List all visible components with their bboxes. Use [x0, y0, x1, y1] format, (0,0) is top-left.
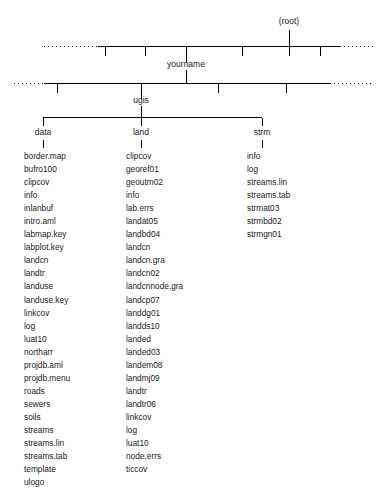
user-level-group	[14, 70, 374, 99]
file-item: inlanbuf	[24, 202, 70, 215]
file-item: landdg01	[126, 307, 183, 320]
file-item: projdb.menu	[24, 372, 70, 385]
file-item: strmat03	[247, 202, 290, 215]
file-list-strm: infologstreams.linstreams.tabstrmat03str…	[247, 150, 290, 241]
file-item: intro.aml	[24, 215, 70, 228]
file-item: info	[247, 150, 290, 163]
file-item: landed	[126, 333, 183, 346]
file-item: landcn	[24, 254, 70, 267]
file-item: landcn	[126, 241, 183, 254]
ugis-node-label: ugis	[133, 95, 149, 105]
file-item: landtr	[126, 385, 183, 398]
file-item: landcnnode.gra	[126, 280, 183, 293]
file-item: landmj09	[126, 372, 183, 385]
file-item: landem08	[126, 359, 183, 372]
file-item: log	[126, 424, 183, 437]
file-item: landtr	[24, 267, 70, 280]
file-item: landuse	[24, 280, 70, 293]
project-level-group	[43, 106, 262, 148]
yourname-node-label: yourname	[167, 59, 205, 69]
file-item: clipcov	[24, 176, 70, 189]
file-item: node.errs	[126, 450, 183, 463]
file-item: streams.lin	[24, 437, 70, 450]
file-item: info	[24, 189, 70, 202]
file-item: labmap.key	[24, 228, 70, 241]
file-item: luat10	[24, 333, 70, 346]
file-item: sewers	[24, 398, 70, 411]
file-item: border.map	[24, 150, 70, 163]
file-item: landcn.gra	[126, 254, 183, 267]
file-item: log	[247, 163, 290, 176]
file-item: ticcov	[126, 463, 183, 476]
subdir-header-data: data	[35, 127, 52, 137]
file-item: landcn02	[126, 267, 183, 280]
file-item: landed03	[126, 346, 183, 359]
file-item: lab.errs	[126, 202, 183, 215]
file-item: landtr06	[126, 398, 183, 411]
subdir-header-strm: strm	[254, 127, 271, 137]
file-item: strmbd02	[247, 215, 290, 228]
file-list-land: clipcovgeoref01geoutm02infolab.errslanda…	[126, 150, 183, 476]
file-list-data: border.mapbufro100clipcovinfoinlanbufint…	[24, 150, 70, 489]
file-item: streams.tab	[24, 450, 70, 463]
file-item: info	[126, 189, 183, 202]
file-item: northarr	[24, 346, 70, 359]
file-item: log	[24, 320, 70, 333]
file-item: streams.lin	[247, 176, 290, 189]
file-item: geoutm02	[126, 176, 183, 189]
root-node-label: (root)	[279, 16, 299, 26]
file-item: streams	[24, 424, 70, 437]
file-item: luat10	[126, 437, 183, 450]
file-item: template	[24, 463, 70, 476]
file-item: landbd04	[126, 228, 183, 241]
file-item: landds10	[126, 320, 183, 333]
file-item: strmgn01	[247, 228, 290, 241]
file-item: georef01	[126, 163, 183, 176]
file-item: landat05	[126, 215, 183, 228]
file-item: bufro100	[24, 163, 70, 176]
file-item: projdb.aml	[24, 359, 70, 372]
root-level-group	[44, 30, 374, 63]
subdir-header-land: land	[133, 127, 149, 137]
file-item: clipcov	[126, 150, 183, 163]
file-item: linkcov	[126, 411, 183, 424]
file-item: streams.tab	[247, 189, 290, 202]
file-item: roads	[24, 385, 70, 398]
file-item: landcp07	[126, 294, 183, 307]
file-item: landuse.key	[24, 294, 70, 307]
file-item: labplot.key	[24, 241, 70, 254]
file-item: ulogo	[24, 476, 70, 489]
file-item: linkcov	[24, 307, 70, 320]
file-item: soils	[24, 411, 70, 424]
